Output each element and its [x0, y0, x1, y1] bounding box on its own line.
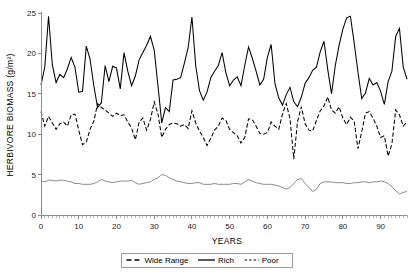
x-tick-label: 80 — [338, 222, 347, 231]
y-tick-label: 15 — [27, 90, 36, 99]
legend-label-wide-range: Wide Range — [144, 256, 189, 265]
legend-label-poor: Poor — [262, 256, 279, 265]
line-chart: 0510152025 0102030405060708090 HERBIVORE… — [0, 0, 413, 280]
legend-label-rich: Rich — [218, 256, 234, 265]
x-tick-label: 50 — [225, 222, 234, 231]
y-axis: 0510152025 — [27, 9, 41, 220]
y-tick-label: 0 — [32, 211, 37, 220]
x-tick-label: 0 — [39, 222, 44, 231]
x-axis: 0102030405060708090 — [39, 215, 407, 231]
x-tick-label: 70 — [301, 222, 310, 231]
series-line-poor — [41, 175, 407, 194]
x-tick-label: 30 — [150, 222, 159, 231]
plot-area — [41, 16, 407, 194]
y-tick-label: 5 — [32, 171, 37, 180]
x-tick-label: 20 — [112, 222, 121, 231]
y-tick-label: 10 — [27, 130, 36, 139]
chart-legend: Wide RangeRichPoor — [121, 253, 292, 267]
x-axis-title: YEARS — [212, 236, 242, 246]
y-axis-title: HERBIVORE BIOMASS (g/m²) — [5, 53, 15, 176]
x-tick-label: 60 — [263, 222, 272, 231]
x-tick-label: 10 — [74, 222, 83, 231]
x-tick-label: 40 — [187, 222, 196, 231]
x-tick-label: 90 — [376, 222, 385, 231]
chart-figure: 0510152025 0102030405060708090 HERBIVORE… — [0, 0, 413, 280]
y-tick-label: 25 — [27, 9, 36, 18]
y-tick-label: 20 — [27, 49, 36, 58]
series-line-wide-range — [41, 97, 407, 159]
series-line-rich — [41, 16, 407, 123]
